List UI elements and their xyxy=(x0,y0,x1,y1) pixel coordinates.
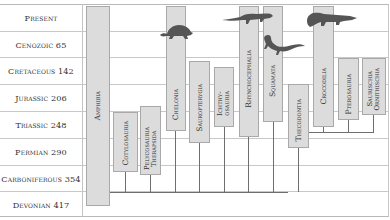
connector-line xyxy=(273,122,274,192)
turtle-icon xyxy=(158,24,194,40)
taxon-box-saurischia-ornithischia: SaurischiaOrnithischia xyxy=(362,58,386,115)
crocodile-icon xyxy=(306,11,358,29)
taxon-label-line2: Ornithischia xyxy=(373,68,381,111)
taxon-label: Rhynchocephalia xyxy=(245,50,253,108)
taxon-label: PelycosauriaTherapsida xyxy=(144,127,158,170)
label-column-divider xyxy=(82,4,83,217)
connector-line xyxy=(125,172,126,192)
lizard-icon xyxy=(262,34,306,58)
connector-line xyxy=(175,131,176,192)
taxon-box-amphibia: Amphibia xyxy=(86,6,110,206)
taxon-box-sauropterygia: Sauropterygia xyxy=(189,61,210,143)
taxon-label: Pterosauria xyxy=(345,74,353,115)
taxon-label: Cotylosauria xyxy=(122,121,130,166)
connector-line xyxy=(373,115,374,132)
connector-line xyxy=(110,192,288,193)
taxon-label: Sauropterygia xyxy=(196,84,204,132)
period-label: Cenozoic 65 xyxy=(0,32,82,57)
taxon-label: Ichthy-osauria xyxy=(217,91,231,116)
taxon-label-line2: osauria xyxy=(223,91,231,116)
period-row-permian: Permian 290 xyxy=(0,139,389,166)
tuatara-icon xyxy=(222,11,274,25)
connector-line xyxy=(323,127,324,132)
connector-line xyxy=(150,175,151,192)
period-label: Jurassic 206 xyxy=(0,85,82,111)
connector-line xyxy=(298,148,299,192)
period-label: Present xyxy=(0,5,82,31)
taxon-box-ichthyosauria: Ichthy-osauria xyxy=(214,67,234,127)
taxon-label: Crocodilia xyxy=(320,68,328,105)
connector-line xyxy=(224,127,225,192)
taxon-box-pterosauria: Pterosauria xyxy=(338,58,359,120)
period-label: Permian 290 xyxy=(0,139,82,165)
taxon-label: Squamata xyxy=(269,65,277,97)
connector-line xyxy=(199,143,200,192)
connector-line xyxy=(248,137,249,192)
taxon-label: Chelonia xyxy=(172,89,180,120)
period-label: Triassic 248 xyxy=(0,112,82,138)
period-row-carboniferous: Carboniferous 354 xyxy=(0,166,389,192)
connector-line xyxy=(308,132,374,133)
period-label: Devonian 417 xyxy=(0,192,82,217)
taxon-label: Amphibia xyxy=(94,91,102,121)
taxon-box-cotylosauria: Cotylosauria xyxy=(113,112,138,172)
taxon-box-rhynchocephalia: Rhynchocephalia xyxy=(239,6,259,137)
period-label: Carboniferous 354 xyxy=(0,166,82,191)
taxon-label: SaurischiaOrnithischia xyxy=(367,68,381,111)
period-label: Cretaceous 142 xyxy=(0,58,82,84)
period-row-devonian: Devonian 417 xyxy=(0,192,389,217)
taxon-label: Thecodontia xyxy=(295,99,303,141)
taxon-box-thecodontia: Thecodontia xyxy=(288,84,309,148)
taxon-box-pelycosauria-therapsida: PelycosauriaTherapsida xyxy=(140,106,161,175)
connector-line xyxy=(348,120,349,132)
taxon-label-line2: Therapsida xyxy=(150,130,158,166)
